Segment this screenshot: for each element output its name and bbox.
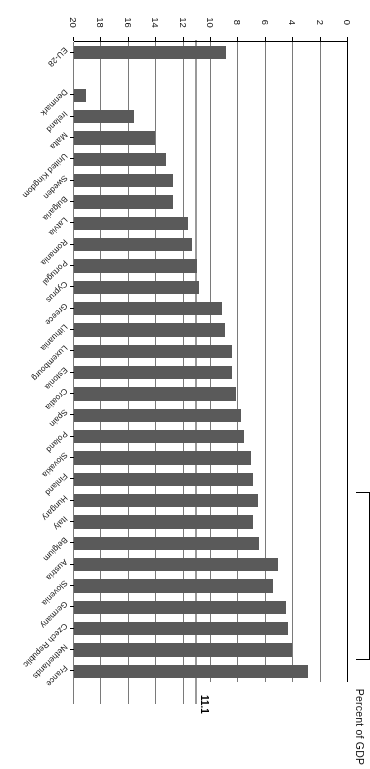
value-tick-label-14: 14: [151, 13, 162, 33]
value-tick-label-12: 12: [178, 13, 189, 33]
value-tick-label-16: 16: [123, 13, 134, 33]
category-tick: [70, 286, 74, 287]
bar-row: France: [74, 661, 348, 682]
bar: [74, 537, 259, 550]
bar-row: Greece: [74, 298, 348, 319]
bar-row: Finland: [74, 469, 348, 490]
bar-row: Hungary: [74, 490, 348, 511]
bar-row: Austria: [74, 554, 348, 575]
bar: [74, 131, 155, 144]
bar: [74, 558, 278, 571]
category-tick: [70, 585, 74, 586]
value-tick-4: [292, 37, 293, 41]
bar-row: Denmark: [74, 85, 348, 106]
category-label: EU-28: [46, 45, 69, 68]
axis-title-box: [356, 492, 370, 660]
bar: [74, 515, 253, 528]
bar: [74, 46, 226, 59]
bar-row: Slovakia: [74, 447, 348, 468]
category-tick: [70, 265, 74, 266]
category-tick: [70, 116, 74, 117]
category-tick: [70, 414, 74, 415]
value-tick-18: [100, 37, 101, 41]
bar: [74, 238, 192, 251]
category-tick: [70, 222, 74, 223]
bar: [74, 195, 173, 208]
category-tick: [70, 542, 74, 543]
bar-row: Latvia: [74, 213, 348, 234]
bar: [74, 494, 258, 507]
category-label: Italy: [52, 514, 69, 531]
value-tick-label-20: 20: [69, 13, 80, 33]
category-tick: [70, 180, 74, 181]
value-tick-8: [237, 37, 238, 41]
category-tick: [70, 158, 74, 159]
bar: [74, 622, 288, 635]
bar-row: Spain: [74, 405, 348, 426]
value-tick-label-10: 10: [206, 13, 217, 33]
bar-row: Cyprus: [74, 277, 348, 298]
bar: [74, 387, 236, 400]
bar-row: Germany: [74, 597, 348, 618]
category-tick: [70, 606, 74, 607]
value-tick-label-0: 0: [343, 13, 354, 33]
category-label: Greece: [43, 301, 69, 327]
bar-row: Ireland: [74, 106, 348, 127]
value-axis-line: [74, 41, 348, 42]
value-tick-label-4: 4: [288, 13, 299, 33]
category-tick: [70, 393, 74, 394]
bar-row: Bulgaria: [74, 191, 348, 212]
bar-row: United Kingdom: [74, 149, 348, 170]
value-tick-label-18: 18: [96, 13, 107, 33]
category-tick: [70, 308, 74, 309]
bar-chart: Percent of GDP 11.1 FranceNetherlandsCze…: [74, 42, 348, 682]
bar: [74, 110, 134, 123]
value-tick-6: [265, 37, 266, 41]
category-tick: [70, 628, 74, 629]
bar-row: Slovenia: [74, 575, 348, 596]
category-tick: [70, 436, 74, 437]
category-label: Poland: [44, 429, 69, 454]
category-tick: [70, 521, 74, 522]
bar-row: Romania: [74, 234, 348, 255]
bar: [74, 473, 253, 486]
bar-row: Lithuania: [74, 319, 348, 340]
bar: [74, 153, 166, 166]
category-label: Malta: [48, 130, 69, 151]
category-tick: [70, 350, 74, 351]
value-tick-label-6: 6: [260, 13, 271, 33]
bar: [74, 430, 244, 443]
value-tick-14: [155, 37, 156, 41]
bar: [74, 601, 286, 614]
category-tick: [70, 564, 74, 565]
bar-row: Belgium: [74, 533, 348, 554]
bar: [74, 665, 308, 678]
category-tick: [70, 649, 74, 650]
bar: [74, 323, 225, 336]
reference-line-label: 11.1: [199, 695, 210, 714]
category-tick: [70, 94, 74, 95]
bar: [74, 302, 222, 315]
bar-row: Croatia: [74, 383, 348, 404]
value-tick-16: [128, 37, 129, 41]
x-axis-title: Percent of GDP: [354, 642, 366, 769]
bar: [74, 345, 232, 358]
value-tick-label-8: 8: [233, 13, 244, 33]
bar-row: Sweden: [74, 170, 348, 191]
bar-row: Malta: [74, 127, 348, 148]
category-tick: [70, 478, 74, 479]
bar-row: EU-28: [74, 42, 348, 63]
bar: [74, 366, 232, 379]
bar: [74, 281, 199, 294]
bar: [74, 217, 188, 230]
bar-row: Estonia: [74, 362, 348, 383]
value-tick-12: [183, 37, 184, 41]
category-tick: [70, 457, 74, 458]
bar-row: Netherlands: [74, 639, 348, 660]
bar: [74, 259, 197, 272]
value-tick-0: [347, 37, 348, 41]
value-tick-20: [73, 37, 74, 41]
bar-row: Italy: [74, 511, 348, 532]
category-tick: [70, 244, 74, 245]
